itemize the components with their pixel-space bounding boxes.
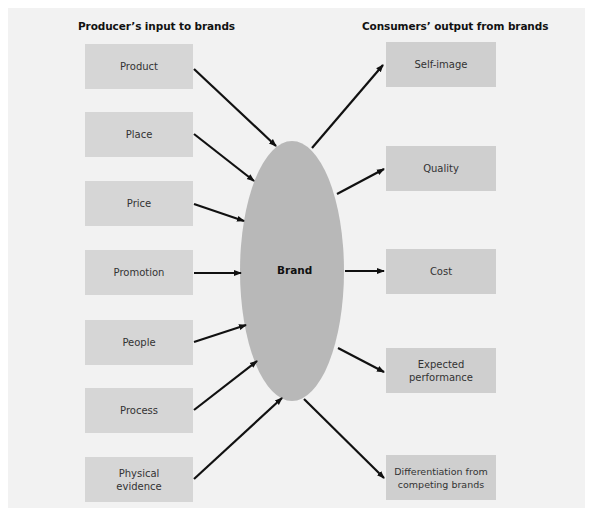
input-box-place: Place	[85, 112, 193, 157]
output-box-self-image: Self-image	[386, 42, 496, 87]
arrow-product-to-brand	[194, 69, 276, 146]
arrow-brand-to-quality	[337, 169, 384, 194]
arrow-price-to-brand	[194, 204, 244, 221]
output-box-expected-performance: Expected performance	[386, 348, 496, 393]
output-box-quality: Quality	[386, 146, 496, 191]
arrow-brand-to-self-image	[312, 65, 383, 148]
arrow-physical-evidence-to-brand	[194, 398, 282, 479]
output-label: Cost	[430, 265, 452, 278]
input-box-promotion: Promotion	[85, 250, 193, 295]
arrow-brand-to-differentiation	[304, 399, 384, 478]
input-label: Promotion	[114, 266, 165, 279]
arrow-place-to-brand	[194, 134, 254, 181]
input-label: Place	[126, 128, 153, 141]
input-box-process: Process	[85, 388, 193, 433]
output-box-cost: Cost	[386, 249, 496, 294]
input-box-product: Product	[85, 44, 193, 89]
arrow-people-to-brand	[194, 325, 246, 342]
output-label: Quality	[423, 162, 459, 175]
input-label: People	[122, 336, 155, 349]
output-label: Self-image	[414, 58, 467, 71]
brand-label: Brand	[277, 264, 312, 276]
output-label: Differentiation from competing brands	[390, 465, 492, 491]
output-label: Expected performance	[404, 358, 478, 384]
input-label: Price	[127, 197, 151, 210]
arrow-process-to-brand	[194, 361, 257, 410]
input-label: Physical evidence	[109, 467, 169, 493]
input-box-price: Price	[85, 181, 193, 226]
input-label: Product	[120, 60, 158, 73]
input-label: Process	[120, 404, 158, 417]
input-box-people: People	[85, 320, 193, 365]
output-box-differentiation: Differentiation from competing brands	[386, 455, 496, 500]
input-box-physical-evidence: Physical evidence	[85, 457, 193, 502]
arrow-brand-to-expected-performance	[338, 348, 384, 372]
